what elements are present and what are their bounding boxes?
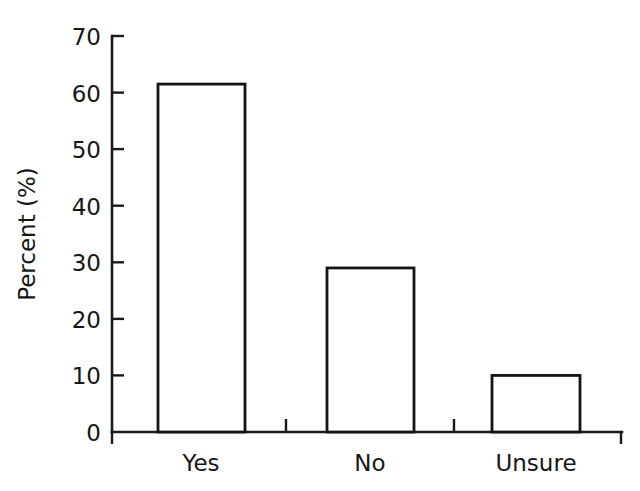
bar-unsure: [492, 375, 580, 432]
y-tick-label-30: 30: [72, 250, 101, 276]
y-axis-tick-labels: 70 60 50 40 30 20 10 0: [72, 24, 101, 446]
x-label-unsure: Unsure: [495, 450, 576, 476]
y-tick-label-50: 50: [72, 137, 101, 163]
y-axis-title: Percent (%): [14, 167, 40, 301]
y-tick-label-60: 60: [72, 81, 101, 107]
bar-chart-figure: 70 60 50 40 30 20 10 0 Percent (%) Yes N…: [0, 0, 640, 491]
x-axis-category-labels: Yes No Unsure: [181, 450, 576, 476]
y-tick-label-0: 0: [86, 420, 101, 446]
bar-yes: [158, 84, 245, 432]
bar-no: [327, 268, 414, 432]
y-tick-label-20: 20: [72, 307, 101, 333]
y-tick-label-10: 10: [72, 363, 101, 389]
bar-group: [158, 84, 580, 432]
chart-canvas: 70 60 50 40 30 20 10 0 Percent (%) Yes N…: [0, 0, 640, 491]
y-tick-label-40: 40: [72, 194, 101, 220]
y-axis-ticks: [112, 36, 124, 375]
y-tick-label-70: 70: [72, 24, 101, 50]
x-label-no: No: [354, 450, 385, 476]
x-label-yes: Yes: [181, 450, 219, 476]
